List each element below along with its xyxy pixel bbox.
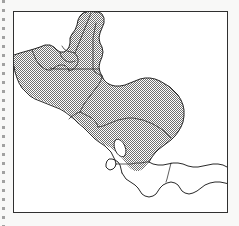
shaded-region-fill	[14, 12, 228, 213]
map-border	[13, 11, 228, 213]
central-america-map	[14, 12, 228, 213]
map-figure	[0, 0, 239, 226]
page-edge-dotted-line	[2, 0, 5, 226]
